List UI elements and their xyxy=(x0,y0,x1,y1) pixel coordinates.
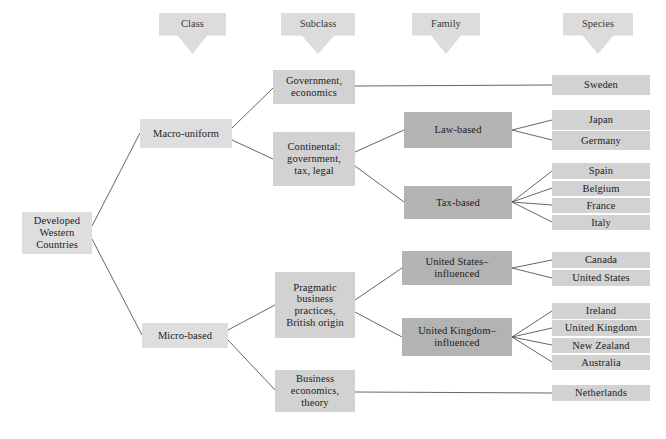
node-species-netherlands[interactable]: Netherlands xyxy=(552,385,650,401)
edge-taxbased-belgium xyxy=(512,188,552,202)
node-species-canada[interactable]: Canada xyxy=(552,252,650,268)
edge-government-sweden xyxy=(355,85,552,86)
edge-taxbased-spain xyxy=(512,171,552,202)
edge-macro-continental xyxy=(232,140,273,159)
edge-ukinfluenced-australia xyxy=(512,337,552,362)
edge-usinfluenced-canada xyxy=(512,260,552,268)
node-species-united-kingdom[interactable]: United Kingdom xyxy=(552,320,650,336)
edge-businesseconomics-netherlands xyxy=(355,392,552,393)
edge-macro-government xyxy=(232,88,273,128)
node-species-germany[interactable]: Germany xyxy=(552,131,650,150)
edge-root-macro xyxy=(92,133,140,226)
node-species-france[interactable]: France xyxy=(552,198,650,213)
node-species-italy[interactable]: Italy xyxy=(552,215,650,230)
edge-micro-businesseconomics xyxy=(228,340,275,390)
column-header-class: Class xyxy=(159,13,226,54)
node-species-sweden[interactable]: Sweden xyxy=(552,75,650,95)
node-species-ireland[interactable]: Ireland xyxy=(552,303,650,319)
node-species-united-states[interactable]: United States xyxy=(552,270,650,286)
node-united-states-influenced[interactable]: United States– influenced xyxy=(402,251,512,285)
edge-lawbased-germany xyxy=(512,130,552,140)
column-header-species-label: Species xyxy=(563,13,633,29)
node-pragmatic-business-practices-british-origin[interactable]: Pragmatic business practices, British or… xyxy=(275,272,355,338)
edge-ukinfluenced-ireland xyxy=(512,311,552,337)
node-species-australia[interactable]: Australia xyxy=(552,355,650,370)
node-law-based[interactable]: Law-based xyxy=(404,112,512,148)
node-species-japan[interactable]: Japan xyxy=(552,110,650,130)
edge-root-micro xyxy=(92,239,142,335)
node-united-kingdom-influenced[interactable]: United Kingdom– influenced xyxy=(402,318,512,356)
diagram-canvas: Class Subclass Family Species Developed … xyxy=(0,0,666,439)
column-header-subclass: Subclass xyxy=(281,13,355,54)
edge-taxbased-france xyxy=(512,202,552,205)
column-header-family: Family xyxy=(412,13,480,54)
column-header-family-label: Family xyxy=(412,13,480,29)
edge-pragmatic-usinfluenced xyxy=(355,268,402,300)
node-species-belgium[interactable]: Belgium xyxy=(552,181,650,196)
node-continental-government-tax-legal[interactable]: Continental: government, tax, legal xyxy=(273,132,355,186)
node-developed-western-countries[interactable]: Developed Western Countries xyxy=(22,212,92,254)
node-micro-based[interactable]: Micro-based xyxy=(142,323,228,348)
edge-usinfluenced-unitedstates xyxy=(512,268,552,278)
column-header-species: Species xyxy=(563,13,633,54)
node-tax-based[interactable]: Tax-based xyxy=(404,186,512,219)
node-macro-uniform[interactable]: Macro-uniform xyxy=(140,119,232,148)
edge-lawbased-japan xyxy=(512,120,552,130)
column-header-subclass-label: Subclass xyxy=(281,13,355,29)
edge-taxbased-italy xyxy=(512,202,552,222)
node-government-economics[interactable]: Government, economics xyxy=(273,70,355,104)
node-species-new-zealand[interactable]: New Zealand xyxy=(552,338,650,353)
edge-continental-lawbased xyxy=(355,130,404,152)
edge-continental-taxbased xyxy=(355,166,404,202)
column-header-class-label: Class xyxy=(159,13,226,29)
node-species-spain[interactable]: Spain xyxy=(552,163,650,179)
node-business-economics-theory[interactable]: Business economics, theory xyxy=(275,370,355,412)
edge-pragmatic-ukinfluenced xyxy=(355,312,402,337)
edge-ukinfluenced-newzealand xyxy=(512,337,552,345)
edge-ukinfluenced-unitedkingdom xyxy=(512,328,552,337)
edge-micro-pragmatic xyxy=(228,305,275,330)
